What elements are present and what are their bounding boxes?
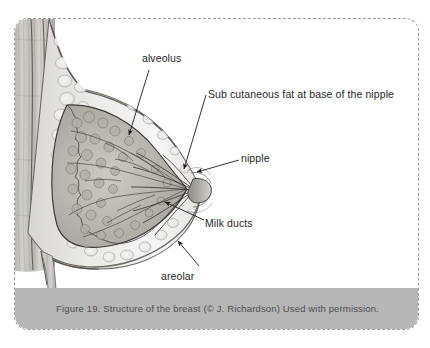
label-nipple: nipple	[241, 152, 270, 165]
figure-caption-bar: Figure 19. Structure of the breast (© J.…	[15, 288, 419, 329]
figure-caption-text: Figure 19. Structure of the breast (© J.…	[56, 303, 379, 314]
label-subcutaneous-fat: Sub cutaneous fat at base of the nipple	[208, 88, 394, 101]
label-areolar: areolar	[161, 270, 194, 283]
breast-anatomy-illustration	[15, 19, 419, 291]
label-milk-ducts: Milk ducts	[205, 217, 253, 230]
label-alveolus: alveolus	[142, 52, 181, 65]
figure-frame: Figure 19. Structure of the breast (© J.…	[14, 18, 419, 330]
